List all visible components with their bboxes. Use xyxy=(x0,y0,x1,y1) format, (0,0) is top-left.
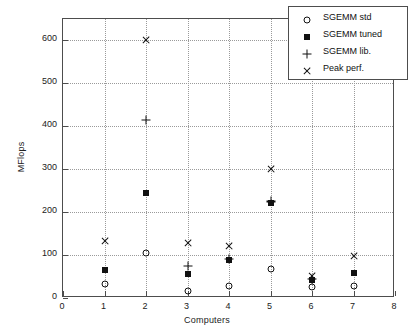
data-point xyxy=(143,190,149,196)
y-tick-label: 400 xyxy=(23,119,57,129)
data-point xyxy=(226,282,233,289)
legend-item-label: SGEMM lib. xyxy=(323,46,371,56)
data-point xyxy=(308,271,317,280)
legend-item-circle: SGEMM std xyxy=(289,11,407,28)
data-point xyxy=(349,251,358,260)
y-tick-label: 100 xyxy=(23,248,57,258)
legend-item-label: Peak perf. xyxy=(323,63,364,73)
legend-item-label: SGEMM std xyxy=(323,12,372,22)
x-tick-mark xyxy=(63,291,64,296)
y-tick-mark xyxy=(63,169,68,170)
y-tick-mark xyxy=(63,83,68,84)
x-tick-label: 0 xyxy=(52,301,72,311)
gridline-vertical xyxy=(271,19,272,296)
data-point xyxy=(142,36,151,45)
data-point xyxy=(309,283,316,290)
y-tick-mark xyxy=(63,255,68,256)
y-tick-label: 200 xyxy=(23,205,57,215)
data-point xyxy=(350,282,357,289)
x-tick-mark xyxy=(229,291,230,296)
legend-item-plus: SGEMM lib. xyxy=(289,45,407,62)
y-tick-mark xyxy=(63,212,68,213)
marker-circle-icon xyxy=(304,17,311,24)
y-tick-mark xyxy=(63,298,68,299)
x-tick-mark xyxy=(354,291,355,296)
gridline-horizontal xyxy=(63,169,393,170)
data-point xyxy=(266,165,275,174)
data-point xyxy=(142,115,151,124)
marker-square-icon xyxy=(304,34,310,40)
data-point xyxy=(225,241,234,250)
y-axis-label: MFlops xyxy=(16,127,26,187)
y-tick-label: 0 xyxy=(23,291,57,301)
x-tick-label: 5 xyxy=(260,301,280,311)
x-axis-label: Computers xyxy=(0,315,414,325)
legend-item-label: SGEMM tuned xyxy=(323,29,382,39)
gridline-vertical xyxy=(105,19,106,296)
x-tick-mark xyxy=(395,291,396,296)
x-tick-mark xyxy=(312,291,313,296)
data-point xyxy=(185,271,191,277)
y-tick-mark xyxy=(63,40,68,41)
y-tick-mark xyxy=(63,126,68,127)
data-point xyxy=(267,265,274,272)
chart-legend: SGEMM stdSGEMM tunedSGEMM lib.Peak perf. xyxy=(288,6,408,80)
data-point xyxy=(225,254,234,263)
legend-item-cross: Peak perf. xyxy=(289,62,407,79)
y-tick-label: 500 xyxy=(23,76,57,86)
gridline-horizontal xyxy=(63,83,393,84)
x-tick-label: 3 xyxy=(177,301,197,311)
gridline-vertical xyxy=(188,19,189,296)
data-point xyxy=(266,197,275,206)
gridline-horizontal xyxy=(63,126,393,127)
data-point xyxy=(100,237,109,246)
data-point xyxy=(183,239,192,248)
gridline-horizontal xyxy=(63,212,393,213)
data-point xyxy=(102,267,108,273)
x-tick-label: 7 xyxy=(343,301,363,311)
data-point xyxy=(183,261,192,270)
data-point xyxy=(351,270,357,276)
x-tick-label: 1 xyxy=(94,301,114,311)
marker-plus-icon xyxy=(303,50,312,59)
data-point xyxy=(143,249,150,256)
x-tick-label: 2 xyxy=(135,301,155,311)
x-tick-label: 4 xyxy=(218,301,238,311)
x-tick-mark xyxy=(105,291,106,296)
data-point xyxy=(101,280,108,287)
scatter-chart-figure: MFlops Computers 0100200300400500600 012… xyxy=(0,0,414,330)
x-tick-label: 8 xyxy=(384,301,404,311)
legend-item-square: SGEMM tuned xyxy=(289,28,407,45)
y-tick-label: 300 xyxy=(23,162,57,172)
x-tick-mark xyxy=(271,291,272,296)
x-tick-mark xyxy=(146,291,147,296)
x-tick-label: 6 xyxy=(301,301,321,311)
y-tick-label: 600 xyxy=(23,33,57,43)
marker-cross-icon xyxy=(303,67,312,76)
data-point xyxy=(184,287,191,294)
